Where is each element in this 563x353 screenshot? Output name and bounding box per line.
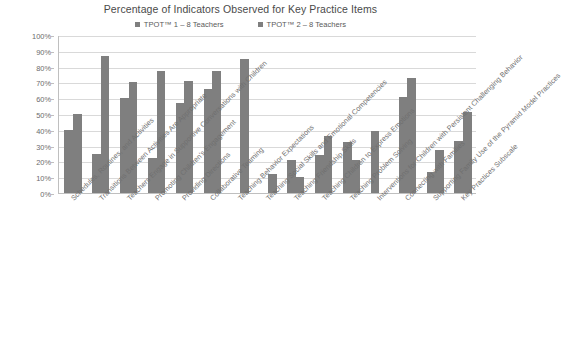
bar[interactable] bbox=[64, 130, 73, 193]
bar[interactable] bbox=[407, 78, 416, 193]
y-tick-mark bbox=[51, 131, 54, 132]
y-tick-mark bbox=[51, 52, 54, 53]
chart-title: Percentage of Indicators Observed for Ke… bbox=[0, 3, 481, 15]
y-tick-label: 40% bbox=[36, 126, 51, 135]
bar[interactable] bbox=[73, 114, 82, 193]
y-tick-label: 70% bbox=[36, 79, 51, 88]
bar[interactable] bbox=[463, 112, 472, 193]
y-tick-mark bbox=[51, 178, 54, 179]
y-axis: 100%90%80%70%60%50%40%30%20%10%0% bbox=[20, 36, 54, 194]
x-axis-labels: Schedules, Routines, and ActivitiesTrans… bbox=[0, 194, 481, 353]
y-tick-label: 100% bbox=[32, 32, 51, 41]
y-tick-label: 80% bbox=[36, 63, 51, 72]
y-tick-label: 50% bbox=[36, 111, 51, 120]
y-tick-mark bbox=[51, 36, 54, 37]
bar-group bbox=[64, 36, 81, 193]
y-tick-label: 20% bbox=[36, 158, 51, 167]
legend-label-series-1: TPOT™ 1 – 8 Teachers bbox=[144, 20, 224, 29]
legend-swatch-series-2 bbox=[258, 22, 263, 27]
y-tick-mark bbox=[51, 162, 54, 163]
legend-item-series-2[interactable]: TPOT™ 2 – 8 Teachers bbox=[258, 20, 347, 29]
y-tick-mark bbox=[51, 99, 54, 100]
legend-swatch-series-1 bbox=[135, 22, 140, 27]
legend-label-series-2: TPOT™ 2 – 8 Teachers bbox=[267, 20, 347, 29]
y-tick-label: 60% bbox=[36, 95, 51, 104]
y-tick-label: 90% bbox=[36, 47, 51, 56]
legend-item-series-1[interactable]: TPOT™ 1 – 8 Teachers bbox=[135, 20, 224, 29]
y-tick-mark bbox=[51, 83, 54, 84]
y-tick-label: 10% bbox=[36, 174, 51, 183]
y-tick-mark bbox=[51, 147, 54, 148]
y-tick-mark bbox=[51, 115, 54, 116]
y-tick-label: 30% bbox=[36, 142, 51, 151]
y-tick-mark bbox=[51, 68, 54, 69]
chart-legend: TPOT™ 1 – 8 Teachers TPOT™ 2 – 8 Teacher… bbox=[0, 20, 481, 29]
